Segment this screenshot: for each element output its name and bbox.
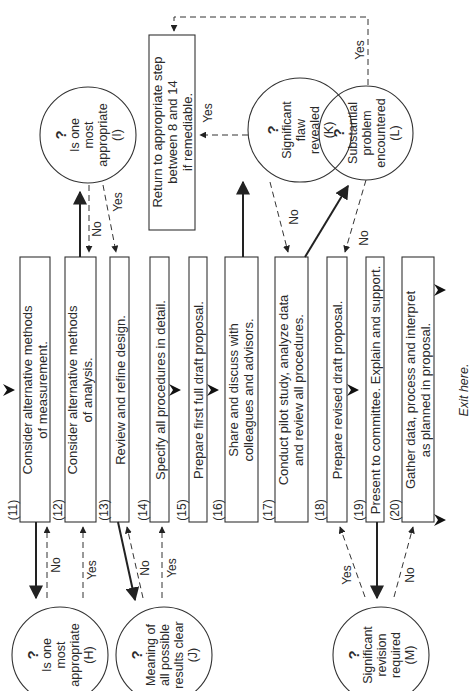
step-12-text: Consider alternative methodsof analysis. bbox=[65, 305, 95, 474]
step-number: (17) bbox=[261, 499, 276, 520]
step-15-text: Prepare first full draft proposal. bbox=[191, 301, 206, 479]
step-number: (20) bbox=[388, 499, 403, 520]
decision-L: ? Substantialproblemencountered(L) bbox=[331, 98, 402, 168]
edge-label-no: No bbox=[138, 560, 153, 575]
pointer-icon bbox=[3, 384, 15, 396]
question-mark-icon: ? bbox=[331, 98, 346, 168]
step-number: (15) bbox=[175, 499, 190, 520]
edge-label-no: No bbox=[403, 567, 418, 582]
pointer-icon bbox=[434, 284, 446, 296]
step-13-text: Review and refine design. bbox=[113, 315, 128, 465]
step-20-text: Gather data, process and interpretas pla… bbox=[403, 291, 433, 489]
step-14-text: Specify all procedures in detail. bbox=[153, 300, 168, 480]
pointer-icon bbox=[169, 384, 181, 396]
pointer-icon bbox=[347, 384, 359, 396]
pointer-icon bbox=[434, 514, 446, 526]
step-number: (11) bbox=[6, 500, 21, 520]
edge-label-yes: Yes bbox=[85, 560, 100, 580]
decision-M: ? Significantrevisionrequired(M) bbox=[346, 626, 417, 684]
return-box-text: Return to appropriate step between 8 and… bbox=[150, 56, 195, 207]
edge-label-yes: Yes bbox=[340, 565, 355, 585]
edge-label-no: No bbox=[49, 557, 64, 572]
edge-label-no: No bbox=[90, 221, 105, 236]
pointer-icon bbox=[207, 384, 219, 396]
edge-label-yes: Yes bbox=[353, 40, 368, 60]
step-18-text: Prepare revised draft proposal. bbox=[330, 301, 345, 479]
exit-label: Exit here. bbox=[457, 364, 471, 417]
question-mark-icon: ? bbox=[25, 623, 40, 686]
step-number: (16) bbox=[211, 499, 226, 520]
question-mark-icon: ? bbox=[129, 621, 144, 688]
question-mark-icon: ? bbox=[346, 626, 361, 684]
edge-label-no: No bbox=[357, 230, 372, 245]
edge-label-yes: Yes bbox=[111, 192, 126, 212]
decision-I: ? Is onemostappropriate(I) bbox=[53, 103, 124, 166]
step-number: (12) bbox=[51, 499, 66, 520]
flowchart: Consider alternative methodsof measureme… bbox=[0, 0, 471, 691]
decision-H: ? Is onemostappropriate(H) bbox=[25, 623, 96, 686]
step-19-text: Present to committee. Explain and suppor… bbox=[368, 266, 383, 515]
step-11-text: Consider alternative methodsof measureme… bbox=[20, 305, 50, 474]
decision-K: ? Significantflawrevealed(K) bbox=[265, 101, 336, 159]
step-number: (14) bbox=[136, 499, 151, 520]
step-number: (19) bbox=[352, 499, 367, 520]
edge-label-no: No bbox=[287, 209, 302, 224]
question-mark-icon: ? bbox=[265, 101, 280, 159]
step-17-text: Conduct pilot study, analyze dataand rev… bbox=[276, 295, 306, 486]
edge-label-yes: Yes bbox=[165, 558, 180, 578]
step-number: (13) bbox=[97, 499, 112, 520]
edge-label-yes: Yes bbox=[201, 103, 216, 123]
question-mark-icon: ? bbox=[53, 103, 68, 166]
decision-J: ? Meaning ofall possibleresults clear(J) bbox=[129, 621, 200, 688]
step-16-text: Share and discuss withcolleagues and adv… bbox=[226, 318, 256, 461]
step-number: (18) bbox=[313, 499, 328, 520]
